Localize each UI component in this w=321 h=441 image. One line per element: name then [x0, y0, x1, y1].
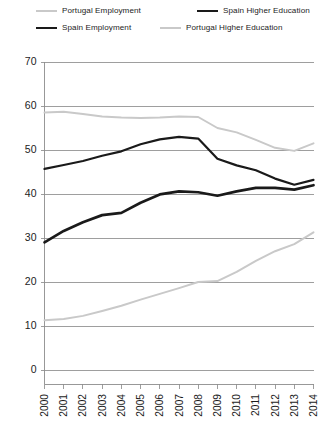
line-chart-svg: 010203040506070 200020012002200320042005… — [0, 0, 321, 441]
y-axis-labels-group: 010203040506070 — [25, 55, 37, 375]
x-axis-tick-label: 2005 — [135, 394, 146, 417]
series-line-spain-employment — [45, 137, 314, 185]
x-axis-tick-label: 2000 — [39, 394, 50, 417]
x-axis-tick-label: 2012 — [270, 394, 281, 417]
y-axis-tick-label: 10 — [25, 319, 37, 331]
gridlines-group — [45, 62, 314, 370]
tickmarks-group — [41, 62, 314, 389]
x-axis-tick-label: 2008 — [193, 394, 204, 417]
y-axis-tick-label: 70 — [25, 55, 37, 67]
axes-group — [45, 62, 314, 384]
y-axis-tick-label: 20 — [25, 275, 37, 287]
x-axis-tick-label: 2010 — [231, 394, 242, 417]
x-axis-tick-label: 2013 — [289, 394, 300, 417]
y-axis-tick-label: 50 — [25, 143, 37, 155]
series-line-portugal-employment — [45, 112, 314, 151]
y-axis-tick-label: 30 — [25, 231, 37, 243]
x-axis-tick-label: 2004 — [116, 394, 127, 417]
y-axis-tick-label: 0 — [31, 363, 37, 375]
x-axis-tick-label: 2002 — [77, 394, 88, 417]
series-lines-group — [45, 112, 314, 321]
plot-area: 010203040506070 200020012002200320042005… — [0, 0, 321, 441]
x-axis-tick-label: 2009 — [212, 394, 223, 417]
x-axis-tick-label: 2007 — [174, 394, 185, 417]
x-axis-tick-label: 2001 — [58, 394, 69, 417]
x-axis-tick-label: 2011 — [250, 394, 261, 416]
x-axis-tick-label: 2014 — [308, 394, 319, 417]
y-axis-tick-label: 60 — [25, 99, 37, 111]
y-axis-tick-label: 40 — [25, 187, 37, 199]
series-line-portugal-higher-education — [45, 232, 314, 320]
x-axis-labels-group: 2000200120022003200420052006200720082009… — [39, 394, 319, 417]
x-axis-tick-label: 2003 — [97, 394, 108, 417]
x-axis-tick-label: 2006 — [154, 394, 165, 417]
chart-root: Portugal Employment Spain Higher Educati… — [0, 0, 321, 441]
